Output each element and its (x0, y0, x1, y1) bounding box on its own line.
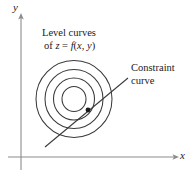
y-axis (18, 13, 24, 170)
level-curves-annotation-line1: Level curves (42, 26, 96, 39)
paren-close: ) (92, 40, 96, 51)
x-axis (8, 154, 179, 160)
diagram-canvas (0, 0, 193, 181)
x-axis-label: x (180, 150, 185, 161)
lagrange-multiplier-diagram: y x Level curves of z = f(x, y) Constrai… (0, 0, 193, 181)
level-curve-ring-2 (54, 78, 95, 120)
y-axis-label: y (13, 2, 18, 13)
constraint-curve-line (45, 78, 128, 147)
level-curve-ring-4 (36, 61, 112, 138)
constraint-curve-annotation-line2: curve (131, 74, 175, 87)
tangency-point-dot (86, 108, 91, 113)
level-curves-of-text: of (44, 40, 55, 51)
level-curves-annotation: Level curves of z = f(x, y) (42, 26, 96, 52)
level-curve-rings (36, 61, 112, 138)
equals-sign: = (59, 40, 70, 51)
level-curve-ring-1 (62, 87, 86, 112)
level-curves-annotation-line2: of z = f(x, y) (42, 39, 96, 52)
constraint-curve-annotation: Constraint curve (131, 61, 175, 87)
constraint-curve-annotation-line1: Constraint (131, 61, 175, 74)
